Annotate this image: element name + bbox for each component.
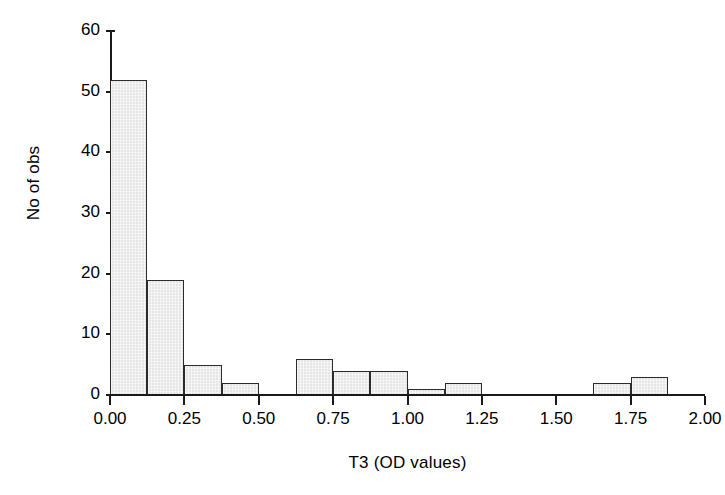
histogram-bar [333, 371, 370, 395]
x-tick-mark [555, 396, 557, 405]
histogram-bar [110, 80, 147, 395]
x-tick-label: 0.50 [219, 409, 299, 429]
x-tick-mark [630, 396, 632, 405]
x-tick-label: 1.00 [368, 409, 448, 429]
histogram-bar [147, 280, 184, 395]
x-tick-label: 0.00 [70, 409, 150, 429]
x-tick-mark [407, 396, 409, 405]
x-tick-mark [704, 396, 706, 405]
x-tick-label: 1.50 [516, 409, 596, 429]
x-tick-mark [183, 396, 185, 405]
x-tick-mark [258, 396, 260, 405]
x-tick-label: 1.75 [591, 409, 671, 429]
histogram-bar [631, 377, 668, 395]
x-tick-mark [332, 396, 334, 405]
histogram-figure: No of obs 0102030405060 0.000.250.500.75… [0, 0, 725, 495]
x-tick-label: 2.00 [665, 409, 725, 429]
x-tick-label: 1.25 [442, 409, 522, 429]
x-tick-label: 0.75 [293, 409, 373, 429]
x-tick-mark [109, 396, 111, 405]
x-tick-mark [481, 396, 483, 405]
histogram-bar [184, 365, 221, 395]
x-tick-label: 0.25 [144, 409, 224, 429]
histogram-bar [296, 359, 333, 395]
x-axis-title: T3 (OD values) [110, 453, 705, 473]
histogram-bar [370, 371, 407, 395]
